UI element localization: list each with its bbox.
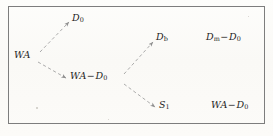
node-wa-d0-operand: D [95,70,103,81]
node-label-wa-minus-d0: WA−D0 [70,71,107,82]
result-wa-operand: D [236,99,244,110]
result-dm-operand: D [229,31,237,42]
result-wa-base: WA [211,99,227,110]
result-wa-operand-subscript: 0 [244,103,248,111]
figure-canvas: WA D0 WA−D0 Db S1 Dm−D0 WA−D0 [0,0,273,136]
result-dm-operand-subscript: 0 [237,35,241,43]
node-label-wa: WA [14,50,30,60]
node-s1-base: S [159,99,166,110]
node-db-subscript: b [164,35,168,43]
node-label-db: Db [156,32,168,43]
result-dm-base: D [206,31,214,42]
node-wa-base: WA [14,49,30,60]
result-label-dm-minus-d0: Dm−D0 [206,32,241,43]
node-wa-d0-base: WA [70,70,86,81]
minus-operator: − [220,31,229,42]
node-d0-subscript: 0 [80,16,84,24]
result-dm-subscript: m [214,35,220,43]
result-label-wa-minus-d0: WA−D0 [211,100,248,111]
node-wa-d0-operand-subscript: 0 [103,74,107,82]
node-db-base: D [156,31,164,42]
node-d0-base: D [72,12,80,23]
node-s1-subscript: 1 [166,103,170,111]
node-label-s1: S1 [159,100,170,111]
node-label-d0: D0 [72,13,84,24]
